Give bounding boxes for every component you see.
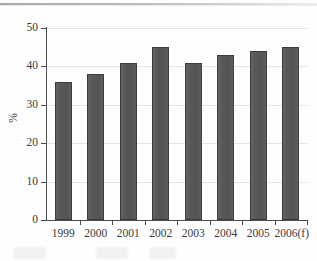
y-tick-0	[41, 220, 46, 221]
x-tick-boundary-3	[177, 221, 178, 225]
x-tick-label-2005: 2005	[242, 227, 275, 240]
y-tick-40	[41, 66, 46, 67]
bar-2004	[217, 55, 234, 220]
y-tick-label-10: 10	[18, 176, 38, 188]
bar-2001	[120, 63, 137, 220]
bar-2002	[152, 47, 169, 220]
plot-area	[47, 28, 307, 220]
x-tick-label-2001: 2001	[112, 227, 145, 240]
x-tick-label-1999: 1999	[47, 227, 80, 240]
chart-page: % 01020304050 19992000200120022003200420…	[0, 0, 317, 261]
x-tick-label-2002: 2002	[145, 227, 178, 240]
y-axis-title: %	[7, 113, 19, 123]
y-tick-label-40: 40	[18, 60, 38, 72]
gridline-50	[47, 28, 307, 29]
bar-chart: % 01020304050 19992000200120022003200420…	[0, 0, 317, 261]
y-tick-label-20: 20	[18, 137, 38, 149]
gridline-10	[47, 182, 307, 183]
bar-2003	[185, 63, 202, 220]
y-tick-label-30: 30	[18, 99, 38, 111]
x-tick-boundary-0	[80, 221, 81, 225]
x-tick-boundary-6	[275, 221, 276, 225]
x-tick-boundary-4	[210, 221, 211, 225]
y-tick-10	[41, 182, 46, 183]
bar-2006(f)	[282, 47, 299, 220]
x-tick-boundary-2	[145, 221, 146, 225]
gridline-30	[47, 105, 307, 106]
gridline-40	[47, 66, 307, 67]
y-tick-label-0: 0	[18, 214, 38, 226]
y-axis-line	[46, 27, 47, 221]
x-tick-boundary-7	[307, 221, 308, 225]
y-tick-30	[41, 105, 46, 106]
x-tick-label-2006(f): 2006(f)	[275, 227, 308, 240]
x-tick-label-2003: 2003	[177, 227, 210, 240]
x-tick-label-2004: 2004	[210, 227, 243, 240]
bar-2000	[87, 74, 104, 220]
bar-2005	[250, 51, 267, 220]
y-tick-label-50: 50	[18, 22, 38, 34]
y-tick-20	[41, 143, 46, 144]
bar-1999	[55, 82, 72, 220]
gridline-20	[47, 143, 307, 144]
x-tick-boundary-1	[112, 221, 113, 225]
x-tick-label-2000: 2000	[80, 227, 113, 240]
scan-artifact	[0, 247, 317, 259]
x-tick-boundary-5	[242, 221, 243, 225]
y-tick-50	[41, 28, 46, 29]
